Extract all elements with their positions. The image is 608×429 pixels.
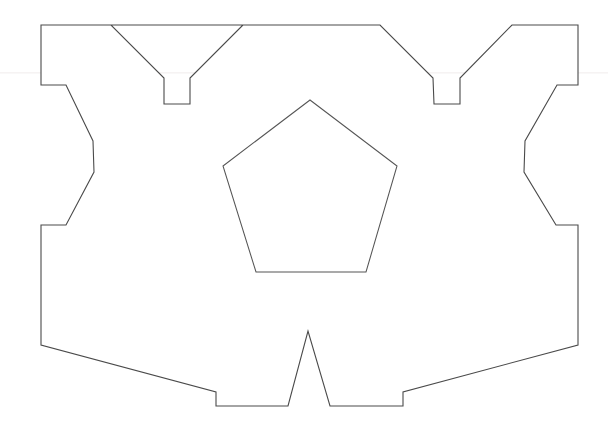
polygon-figure [0, 0, 608, 429]
drawing-canvas [0, 0, 608, 429]
